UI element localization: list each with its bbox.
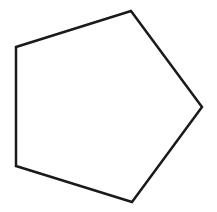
pentagon-shape — [16, 11, 202, 202]
diagram-canvas — [0, 0, 217, 212]
diagram-svg — [0, 0, 217, 212]
